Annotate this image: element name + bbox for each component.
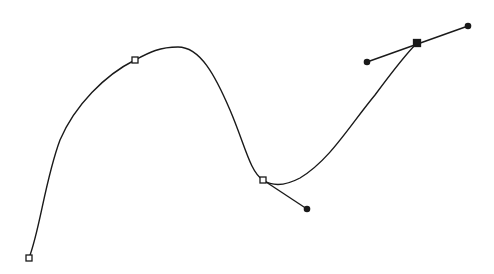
selected-anchor-point-icon[interactable] xyxy=(414,40,421,47)
control-handle-point-icon[interactable] xyxy=(304,206,311,213)
anchor-point-icon[interactable] xyxy=(260,177,266,183)
bezier-curve[interactable] xyxy=(29,43,417,258)
anchor-point-icon[interactable] xyxy=(132,57,138,63)
anchor-point-icon[interactable] xyxy=(26,255,32,261)
control-handle-point-icon[interactable] xyxy=(364,59,371,66)
anchor-points xyxy=(26,40,421,262)
control-points xyxy=(304,23,472,213)
bezier-canvas[interactable] xyxy=(0,0,494,274)
control-handle-point-icon[interactable] xyxy=(465,23,472,30)
